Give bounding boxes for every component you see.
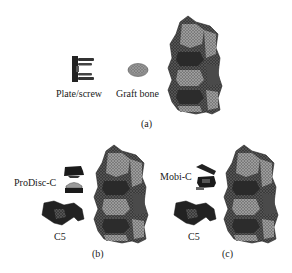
cervical-spine-model-icon xyxy=(166,14,224,116)
panel-c-caption: (c) xyxy=(222,248,233,260)
c5-vertebra-icon xyxy=(40,199,86,227)
c5-vertebra-icon xyxy=(172,199,218,227)
panel-b: ProDisc-C C5 (b) xyxy=(0,135,150,265)
cervical-spine-model-icon xyxy=(222,143,280,245)
cervical-spine-model-icon xyxy=(92,143,150,245)
mobi-c-label: Mobi-C xyxy=(160,171,192,183)
prodisc-c-label: ProDisc-C xyxy=(14,177,56,189)
panel-b-caption: (b) xyxy=(92,248,104,260)
c5-label: C5 xyxy=(54,231,66,243)
plate-screw-label: Plate/screw xyxy=(56,88,102,100)
panel-a: Plate/screw Graft bone (a) xyxy=(0,0,292,132)
panel-a-caption: (a) xyxy=(141,118,152,130)
panel-c: Mobi-C C5 (c) xyxy=(150,135,292,265)
graft-bone-icon xyxy=(127,62,149,78)
graft-bone-label: Graft bone xyxy=(116,88,159,100)
mobi-c-implant-icon xyxy=(194,163,218,193)
prodisc-c-implant-icon xyxy=(62,165,86,195)
c5-label: C5 xyxy=(188,231,200,243)
plate-screw-icon xyxy=(70,54,98,84)
